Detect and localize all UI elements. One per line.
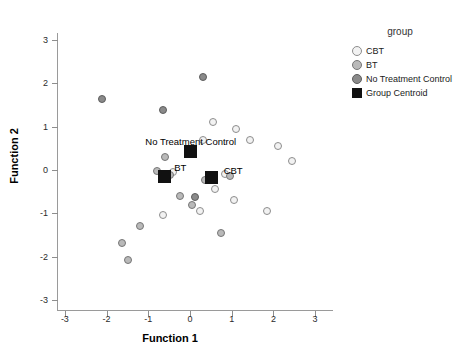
y-tick-label-text: 1: [32, 122, 48, 132]
x-tick-label: -1: [136, 314, 160, 325]
data-point: [136, 222, 144, 230]
scatter-plot-figure: 3210-1-2-3 -3-2-10123 No Treatment Contr…: [0, 0, 466, 361]
data-point: [191, 193, 199, 201]
y-tick-label: 3: [28, 35, 48, 45]
data-point: [263, 207, 271, 215]
x-tick-label-text: -3: [53, 314, 77, 324]
legend-item[interactable]: CBT: [352, 44, 464, 57]
y-tick-label-text: -1: [32, 208, 48, 218]
y-tick-label: 0: [28, 165, 48, 175]
data-point: [98, 95, 106, 103]
y-tick-label: 1: [28, 122, 48, 132]
legend-item-label: BT: [366, 60, 378, 70]
y-tick-mark: [52, 170, 58, 171]
data-point: [232, 125, 240, 133]
x-tick-label: -2: [95, 314, 119, 325]
legend: group CBTBTNo Treatment ControlGroup Cen…: [352, 26, 464, 100]
x-tick-label: 0: [178, 314, 202, 325]
y-tick-mark: [52, 83, 58, 84]
legend-item-label: Group Centroid: [366, 88, 428, 98]
data-point: [199, 73, 207, 81]
legend-item-label: No Treatment Control: [366, 74, 452, 84]
plot-area: 3210-1-2-3 -3-2-10123 No Treatment Contr…: [0, 0, 340, 361]
y-tick-mark: [52, 213, 58, 214]
data-point: [274, 142, 282, 150]
data-point: [188, 201, 196, 209]
group-centroid-marker: [158, 170, 171, 183]
y-tick-mark: [52, 300, 58, 301]
data-point: [288, 157, 296, 165]
legend-item-label: CBT: [366, 46, 384, 56]
data-point: [246, 136, 254, 144]
data-point: [124, 256, 132, 264]
legend-item[interactable]: Group Centroid: [352, 86, 464, 99]
x-axis-line: [57, 310, 333, 311]
y-tick-label-text: 3: [32, 35, 48, 45]
centroid-label: BT: [174, 162, 186, 173]
data-point: [176, 192, 184, 200]
legend-title: group: [352, 26, 448, 37]
x-tick-label: 3: [303, 314, 327, 325]
x-tick-label-text: 3: [303, 314, 327, 324]
y-tick-label: -3: [28, 295, 48, 305]
y-axis-line: [57, 33, 58, 311]
group-centroid-marker: [205, 171, 218, 184]
y-tick-label: -2: [28, 252, 48, 262]
data-point: [209, 118, 217, 126]
legend-circle-icon: [352, 46, 362, 56]
data-point: [230, 196, 238, 204]
legend-item[interactable]: BT: [352, 58, 464, 71]
y-tick-label-text: -2: [32, 252, 48, 262]
x-tick-label-text: -1: [136, 314, 160, 324]
y-axis-title: Function 2: [8, 106, 20, 206]
legend-items: CBTBTNo Treatment ControlGroup Centroid: [352, 44, 464, 99]
data-point: [217, 229, 225, 237]
y-tick-label: 2: [28, 78, 48, 88]
y-tick-label-text: -3: [32, 295, 48, 305]
x-axis-title: Function 1: [0, 332, 340, 344]
x-tick-label-text: 2: [261, 314, 285, 324]
legend-item[interactable]: No Treatment Control: [352, 72, 464, 85]
x-tick-label-text: 1: [220, 314, 244, 324]
centroid-label: No Treatment Control: [145, 136, 236, 147]
data-point: [211, 185, 219, 193]
y-tick-label: -1: [28, 208, 48, 218]
centroid-label: CBT: [224, 165, 243, 176]
legend-circle-icon: [352, 74, 362, 84]
y-tick-mark: [52, 127, 58, 128]
data-point: [118, 239, 126, 247]
x-tick-label: 1: [220, 314, 244, 325]
data-point: [159, 106, 167, 114]
y-tick-label-text: 2: [32, 78, 48, 88]
data-point: [161, 153, 169, 161]
data-point: [196, 207, 204, 215]
y-tick-label-text: 0: [32, 165, 48, 175]
x-tick-label: 2: [261, 314, 285, 325]
y-tick-mark: [52, 257, 58, 258]
y-tick-mark: [52, 40, 58, 41]
legend-circle-icon: [352, 60, 362, 70]
data-point: [159, 211, 167, 219]
legend-square-icon: [352, 88, 362, 98]
x-tick-label: -3: [53, 314, 77, 325]
x-tick-label-text: 0: [178, 314, 202, 324]
x-tick-label-text: -2: [95, 314, 119, 324]
group-centroid-marker: [184, 145, 197, 158]
